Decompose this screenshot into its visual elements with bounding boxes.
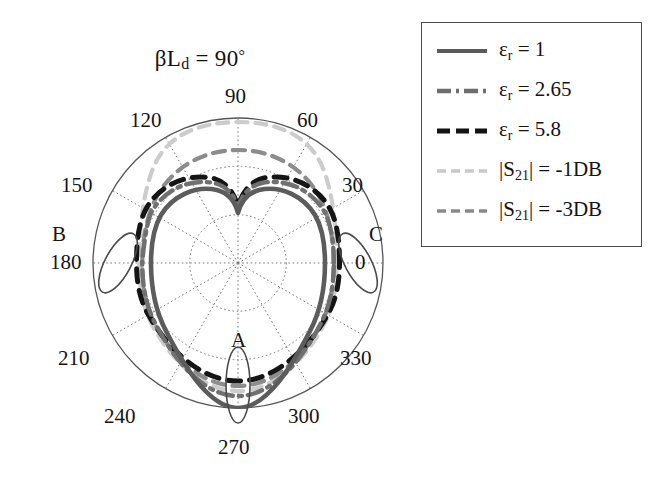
angle-tick-120: 120 — [130, 110, 162, 131]
legend-label-4-prefix: |S — [499, 197, 515, 221]
figure-root: βLd = 90° — [0, 0, 661, 487]
legend-item-s21-minus-1db: |S21| = -1DB — [422, 151, 641, 191]
legend-label-4-sub: 21 — [515, 208, 529, 223]
angle-tick-330: 330 — [340, 348, 372, 369]
legend-label-0-rest: = 1 — [513, 37, 546, 61]
annotation-label-c: C — [369, 224, 383, 245]
polar-plot-area: βLd = 90° — [0, 0, 400, 487]
legend-label-2-rest: = 5.8 — [513, 117, 562, 141]
angle-tick-150: 150 — [61, 175, 93, 196]
angle-tick-300: 300 — [288, 406, 320, 427]
legend-swatch-epsilon-r-5p8 — [436, 124, 488, 138]
annotation-label-a: A — [231, 330, 246, 351]
legend-label-3-rest: | = -1DB — [529, 157, 602, 181]
angle-tick-180: 180 — [50, 252, 82, 273]
angle-tick-210: 210 — [58, 348, 90, 369]
legend-label-2-prefix: ε — [499, 117, 508, 141]
legend-label-4-rest: | = -3DB — [529, 197, 602, 221]
legend-label-epsilon-r-1: εr = 1 — [499, 39, 545, 63]
legend-item-s21-minus-3db: |S21| = -3DB — [422, 191, 641, 231]
angle-tick-240: 240 — [104, 406, 136, 427]
angle-tick-270: 270 — [218, 437, 250, 458]
legend-label-s21-minus-3db: |S21| = -3DB — [499, 199, 602, 223]
legend-item-epsilon-r-1: εr = 1 — [422, 31, 641, 71]
legend-swatch-s21-minus-1db — [436, 164, 488, 178]
legend-swatch-epsilon-r-2p65 — [436, 84, 488, 98]
annotation-label-b: B — [52, 224, 66, 245]
angle-tick-30: 30 — [342, 175, 363, 196]
legend-item-epsilon-r-2p65: εr = 2.65 — [422, 71, 641, 111]
legend-item-epsilon-r-5p8: εr = 5.8 — [422, 111, 641, 151]
legend-swatch-epsilon-r-1 — [436, 44, 488, 58]
angle-tick-0: 0 — [355, 252, 366, 273]
legend-label-1-prefix: ε — [499, 77, 508, 101]
legend-label-epsilon-r-2p65: εr = 2.65 — [499, 79, 572, 103]
legend-swatch-s21-minus-3db — [436, 204, 488, 218]
curve-epsilon-r-1 — [151, 189, 325, 408]
legend-label-3-prefix: |S — [499, 157, 515, 181]
legend-label-3-sub: 21 — [515, 168, 529, 183]
legend-label-s21-minus-1db: |S21| = -1DB — [499, 159, 602, 183]
legend-box: εr = 1 εr = 2.65 εr = 5.8 |S21| = -1DB | — [421, 22, 642, 247]
angle-tick-90: 90 — [225, 86, 246, 107]
legend-label-epsilon-r-5p8: εr = 5.8 — [499, 119, 561, 143]
legend-label-0-prefix: ε — [499, 37, 508, 61]
angle-tick-60: 60 — [297, 110, 318, 131]
legend-label-1-rest: = 2.65 — [513, 77, 572, 101]
